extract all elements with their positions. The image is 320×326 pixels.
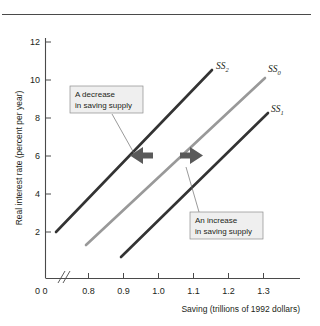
- saving-supply-chart: 12 10 8 6 4 2 0 0 0.8 0.9 1.0 1.1: [0, 0, 320, 326]
- curve-label-ss1: SS1: [271, 104, 284, 116]
- leader-line-decrease: [112, 114, 135, 155]
- y-tick-label-12: 12: [30, 37, 40, 47]
- x-tick-label-1.2: 1.2: [222, 286, 235, 296]
- leader-line-increase: [186, 167, 199, 212]
- x-tick-labels: 0 0.8 0.9 1.0 1.1 1.2 1.3: [42, 286, 269, 296]
- figure-container: 12 10 8 6 4 2 0 0 0.8 0.9 1.0 1.1: [0, 0, 320, 326]
- y-tick-label-6: 6: [35, 151, 40, 161]
- x-tick-label-1.0: 1.0: [152, 286, 165, 296]
- curve-label-ss2: SS2: [216, 61, 230, 73]
- y-tick-marks: [46, 42, 52, 232]
- callout-increase-line1: An increase: [195, 216, 238, 225]
- callout-decrease-line1: A decrease: [75, 90, 116, 99]
- curve-label-ss0: SS0: [268, 64, 282, 76]
- curve-label-ss2-text: SS: [216, 61, 226, 71]
- right-arrow-icon: [180, 147, 203, 164]
- callout-decrease-line2: in saving supply: [75, 101, 132, 110]
- callout-decrease: A decrease in saving supply: [70, 86, 143, 113]
- y-axis-title: Real interest rate (percent per year): [14, 91, 24, 226]
- callout-increase-line2: in saving supply: [195, 227, 252, 236]
- x-tick-label-0.8: 0.8: [82, 286, 95, 296]
- x-tick-label-1.1: 1.1: [187, 286, 200, 296]
- x-tick-marks: [89, 273, 264, 279]
- x-tick-label-0.9: 0.9: [117, 286, 130, 296]
- y-tick-label-0: 0: [35, 286, 40, 296]
- y-tick-label-4: 4: [35, 189, 40, 199]
- x-axis-break-mark: [58, 271, 70, 283]
- callout-increase: An increase in saving supply: [190, 212, 263, 239]
- y-tick-label-2: 2: [35, 227, 40, 237]
- left-arrow-icon: [130, 147, 153, 164]
- x-tick-label-0: 0: [42, 286, 47, 296]
- curve-label-ss1-sub: 1: [281, 109, 284, 116]
- curve-label-ss0-sub: 0: [278, 69, 282, 76]
- y-tick-labels: 12 10 8 6 4 2 0: [30, 37, 40, 296]
- axes-group: [46, 38, 301, 279]
- x-tick-label-1.3: 1.3: [257, 286, 270, 296]
- curve-label-ss1-text: SS: [271, 104, 281, 114]
- curve-label-ss0-text: SS: [268, 64, 278, 74]
- curve-label-ss2-sub: 2: [226, 66, 230, 73]
- x-axis-title: Saving (trillions of 1992 dollars): [181, 304, 300, 314]
- y-tick-label-10: 10: [30, 75, 40, 85]
- y-tick-label-8: 8: [35, 113, 40, 123]
